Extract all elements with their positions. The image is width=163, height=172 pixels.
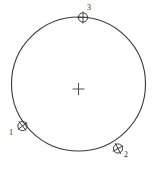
diagram-canvas: 1 2 3 — [0, 0, 163, 172]
point-label-3: 3 — [87, 3, 91, 12]
circle-diagram: 1 2 3 — [0, 0, 163, 172]
point-marker-3[interactable] — [77, 12, 89, 24]
point-label-1: 1 — [9, 128, 13, 137]
center-cross-mark — [73, 83, 85, 95]
point-marker-2[interactable] — [113, 143, 124, 154]
point-label-2: 2 — [124, 150, 128, 159]
